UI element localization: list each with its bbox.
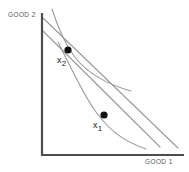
point-x2-marker bbox=[64, 46, 71, 53]
point-x2-subscript: 2 bbox=[62, 59, 66, 68]
point-x2-base: x bbox=[57, 55, 62, 65]
indifference-curve-1 bbox=[58, 42, 146, 149]
point-x2-label: x2 bbox=[57, 55, 66, 65]
point-x1-base: x bbox=[93, 120, 98, 130]
y-axis-label: GOOD 2 bbox=[8, 11, 36, 18]
point-x1-label: x1 bbox=[93, 120, 102, 130]
x-axis-label: GOOD 1 bbox=[145, 158, 173, 165]
point-x1-subscript: 1 bbox=[98, 124, 102, 133]
indifference-curve-diagram: GOOD 2 GOOD 1 x2 x1 bbox=[0, 0, 189, 172]
point-x1-marker bbox=[100, 111, 107, 118]
diagram-canvas bbox=[0, 0, 189, 172]
